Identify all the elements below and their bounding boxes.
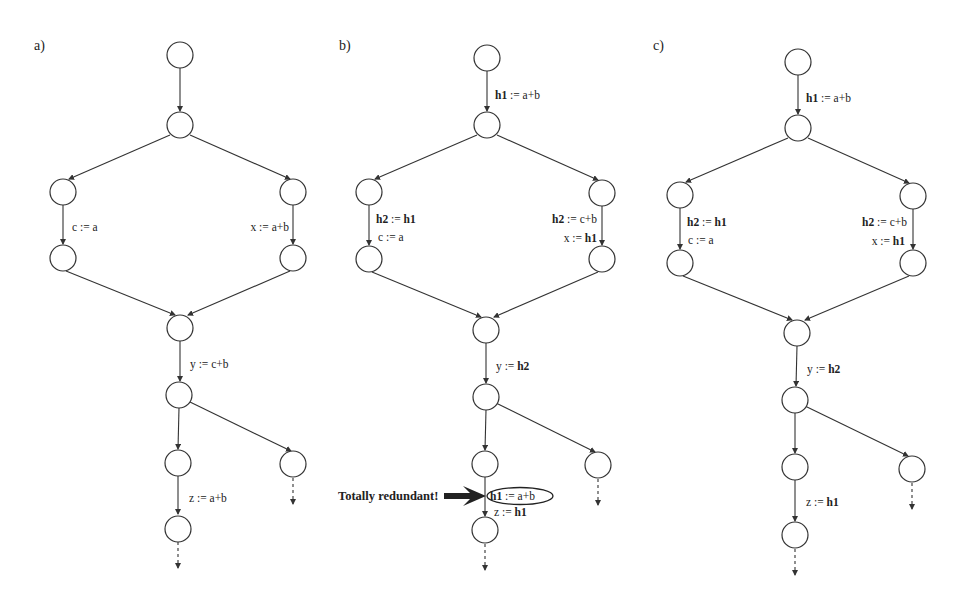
node-c-6 — [900, 250, 926, 276]
panel-b: b) h1 := a+b h2 := h1 c := a h2 := c+b x… — [338, 38, 615, 570]
node-b-5 — [356, 246, 382, 272]
label-a-merge-out: y := c+b — [190, 358, 229, 371]
label-c-merge-out: y := h2 — [807, 363, 841, 376]
node-a-3 — [50, 179, 76, 205]
label-b-top: h1 := a+b — [495, 89, 540, 101]
node-c-5 — [667, 250, 693, 276]
label-b-left-branch-1: h2 := h1 — [376, 213, 416, 225]
label-b-left-branch-2: c := a — [378, 231, 404, 243]
node-a-10 — [280, 451, 306, 477]
node-b-1 — [474, 45, 500, 71]
node-c-10 — [899, 456, 925, 482]
edge-c-branch-right — [805, 406, 908, 456]
node-a-11 — [165, 516, 191, 542]
annotation-arrow-icon — [444, 486, 486, 506]
edge-b-split-right — [497, 135, 598, 180]
label-c-top: h1 := a+b — [806, 92, 851, 104]
flow-graph-figure: a) c := a x := a+b y := c+b z := a+b — [0, 0, 969, 602]
label-b-right-branch-1: h2 := c+b — [552, 213, 597, 225]
edge-a-merge-left — [66, 271, 175, 315]
edge-a-branch-right — [190, 402, 291, 451]
node-c-2 — [785, 115, 811, 141]
node-b-3 — [356, 179, 382, 205]
label-c-right-branch-1: h2 := c+b — [862, 216, 907, 228]
node-a-9 — [165, 450, 191, 476]
panel-label-b: b) — [339, 38, 351, 54]
label-b-lower-1: h1 := a+b — [490, 490, 535, 502]
node-a-6 — [280, 245, 306, 271]
panel-c: c) h1 := a+b h2 := h1 c := a h2 := c+b x… — [653, 38, 926, 575]
node-b-10 — [585, 452, 611, 478]
edge-a-split-right — [190, 135, 290, 179]
node-a-8 — [166, 382, 192, 408]
node-b-7 — [473, 317, 499, 343]
edge-b-down — [485, 410, 486, 450]
node-b-4 — [589, 180, 615, 206]
edge-b-merge-left — [372, 272, 481, 317]
label-a-right-branch: x := a+b — [250, 221, 289, 233]
edge-c-split-right — [808, 138, 909, 183]
node-b-2 — [474, 112, 500, 138]
node-c-7 — [784, 320, 810, 346]
node-c-8 — [782, 387, 808, 413]
label-a-left-branch: c := a — [72, 221, 98, 233]
panel-a: a) c := a x := a+b y := c+b z := a+b — [34, 38, 306, 568]
panel-label-a: a) — [34, 38, 45, 54]
label-c-right-branch-2: x := h1 — [872, 235, 906, 247]
label-c-left-branch-1: h2 := h1 — [687, 216, 727, 228]
edge-c-split-left — [686, 138, 788, 182]
node-a-1 — [167, 42, 193, 68]
edge-b-merge-right — [494, 272, 598, 317]
node-c-9 — [782, 454, 808, 480]
edge-a-split-left — [69, 135, 170, 179]
node-a-5 — [50, 245, 76, 271]
edge-b-branch-right — [496, 403, 595, 452]
edge-c-merge-right — [805, 276, 909, 320]
node-a-2 — [167, 112, 193, 138]
edge-c-merge-out — [796, 346, 797, 386]
node-b-6 — [589, 246, 615, 272]
node-c-4 — [900, 183, 926, 209]
label-b-lower-2: z := h1 — [494, 506, 527, 518]
edge-c-merge-left — [683, 276, 792, 320]
label-c-left-branch-2: c := a — [688, 234, 714, 246]
panel-label-c: c) — [653, 38, 664, 54]
node-c-1 — [785, 49, 811, 75]
label-a-lower: z := a+b — [189, 492, 227, 504]
label-b-merge-out: y := h2 — [496, 360, 530, 373]
node-a-7 — [167, 315, 193, 341]
node-c-3 — [667, 182, 693, 208]
node-c-11 — [782, 522, 808, 548]
edge-a-merge-right — [188, 271, 290, 315]
node-b-8 — [473, 384, 499, 410]
edge-a-down — [178, 408, 179, 449]
label-c-lower: z := h1 — [806, 496, 839, 508]
annotation-totally-redundant: Totally redundant! — [338, 489, 438, 503]
node-b-9 — [472, 451, 498, 477]
node-a-4 — [280, 179, 306, 205]
label-b-right-branch-2: x := h1 — [564, 232, 598, 244]
node-b-11 — [472, 517, 498, 543]
edge-b-split-left — [375, 135, 477, 179]
